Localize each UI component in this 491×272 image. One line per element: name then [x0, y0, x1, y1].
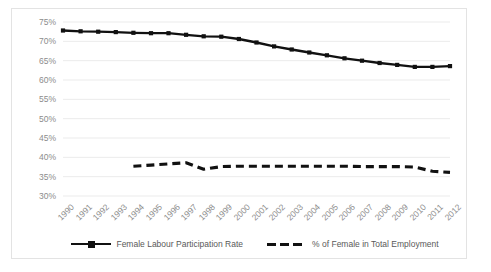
- data-point-marker: [413, 65, 417, 69]
- legend-marker-dashed-line-icon: [267, 239, 307, 249]
- legend-item-female-labour-participation-rate: Female Labour Participation Rate: [71, 239, 243, 249]
- data-point-marker: [237, 37, 241, 41]
- series-line: [133, 163, 450, 173]
- legend-label: % of Female in Total Employment: [312, 239, 438, 249]
- data-point-marker: [114, 30, 118, 34]
- chart-legend: Female Labour Participation Rate % of Fe…: [60, 236, 450, 252]
- data-point-marker: [79, 29, 83, 33]
- data-point-marker: [219, 35, 223, 39]
- data-point-marker: [61, 28, 65, 32]
- data-point-marker: [360, 59, 364, 63]
- data-point-marker: [395, 63, 399, 67]
- data-point-marker: [96, 30, 100, 34]
- data-point-marker: [290, 47, 294, 51]
- data-point-marker: [166, 31, 170, 35]
- data-point-marker: [254, 40, 258, 44]
- gridlines: [63, 22, 450, 196]
- data-point-marker: [342, 56, 346, 60]
- legend-item-percent-female-in-total-employment: % of Female in Total Employment: [267, 239, 438, 249]
- data-point-marker: [325, 53, 329, 57]
- legend-label: Female Labour Participation Rate: [116, 239, 243, 249]
- data-point-marker: [430, 65, 434, 69]
- data-point-marker: [307, 50, 311, 54]
- series-lines: [61, 28, 452, 172]
- data-point-marker: [184, 33, 188, 37]
- series-line: [63, 31, 450, 67]
- data-point-marker: [378, 61, 382, 65]
- legend-marker-solid-line-icon: [71, 239, 111, 249]
- data-point-marker: [448, 64, 452, 68]
- data-point-marker: [149, 31, 153, 35]
- data-point-marker: [272, 44, 276, 48]
- data-point-marker: [131, 31, 135, 35]
- chart-plot-area: [0, 0, 491, 272]
- data-point-marker: [202, 34, 206, 38]
